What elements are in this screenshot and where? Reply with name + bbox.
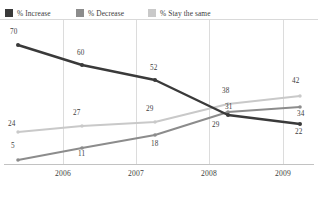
- data-label-stay-the-same-2005: 24: [8, 120, 15, 128]
- gridlines: [63, 20, 283, 165]
- data-label-stay-the-same-2006: 27: [73, 109, 80, 117]
- data-label-decrease-2006: 11: [78, 150, 85, 158]
- x-tick-2008: 2008: [201, 169, 217, 178]
- legend-swatch-icon: [148, 9, 156, 17]
- legend-label-decrease: % Decrease: [88, 9, 124, 18]
- plot-svg: [0, 20, 318, 165]
- data-label-increase-2007: 52: [150, 64, 157, 72]
- data-label-increase-2008: 29: [212, 121, 219, 129]
- data-label-increase-2009: 22: [295, 128, 302, 136]
- chart-legend: % Increase % Decrease % Stay the same: [0, 0, 318, 18]
- legend-label-increase: % Increase: [17, 9, 51, 18]
- plot-area: 70 60 52 29 22 5 11 18 31 34 24 27 29 38…: [0, 20, 318, 165]
- x-tick-2007: 2007: [128, 169, 144, 178]
- legend-item-decrease[interactable]: % Decrease: [76, 3, 124, 16]
- series-line-increase: [16, 43, 302, 126]
- legend-label-stay-the-same: % Stay the same: [160, 9, 211, 18]
- data-label-decrease-2008: 31: [225, 103, 232, 111]
- series-line-stay-the-same: [16, 94, 301, 133]
- line-chart: % Increase % Decrease % Stay the same: [0, 0, 318, 199]
- series-line-decrease: [16, 105, 302, 162]
- legend-item-increase[interactable]: % Increase: [5, 3, 51, 16]
- x-axis-line: [4, 164, 314, 165]
- data-label-decrease-2009: 34: [297, 110, 304, 118]
- x-tick-2009: 2009: [275, 169, 291, 178]
- data-label-stay-the-same-2008: 38: [222, 87, 229, 95]
- data-label-stay-the-same-2009: 42: [292, 77, 299, 85]
- legend-swatch-icon: [76, 9, 84, 17]
- legend-swatch-icon: [5, 9, 13, 17]
- x-tick-2006: 2006: [55, 169, 71, 178]
- data-label-decrease-2007: 18: [151, 140, 158, 148]
- legend-item-stay-the-same[interactable]: % Stay the same: [148, 3, 211, 16]
- data-label-decrease-2005: 5: [11, 142, 15, 150]
- data-label-increase-2005: 70: [10, 28, 17, 36]
- data-label-increase-2006: 60: [77, 49, 84, 57]
- data-label-stay-the-same-2007: 29: [146, 105, 153, 113]
